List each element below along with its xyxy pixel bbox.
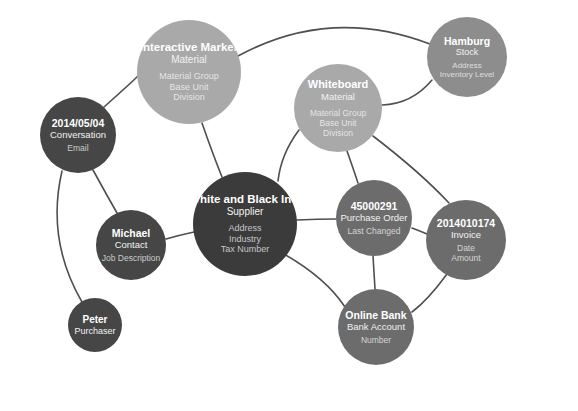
edge-conversation-interactive-marker: [104, 76, 138, 107]
graph-node-attribute-list: Material GroupBase UnitDivision: [159, 71, 219, 103]
graph-node-attribute-list: AddressIndustryTax Number: [221, 223, 270, 255]
graph-node-attribute: Base Unit: [169, 82, 208, 93]
graph-node-attribute: Address: [228, 223, 261, 234]
edge-michael-supplier: [166, 232, 194, 239]
graph-node-type: Invoice: [451, 229, 481, 240]
graph-node-attribute: Amount: [451, 253, 480, 263]
graph-node-attribute: Industry: [229, 234, 261, 245]
graph-node-peter[interactable]: PeterPurchaser: [68, 298, 122, 352]
graph-node-attribute: Division: [323, 128, 353, 138]
graph-node-attribute: Email: [67, 143, 88, 153]
graph-node-attribute-list: AddressInventory Level: [440, 61, 494, 80]
graph-node-attribute: Date: [457, 243, 475, 253]
graph-node-attribute-list: DateAmount: [451, 243, 480, 263]
graph-node-attribute-list: Job Description: [102, 253, 161, 263]
edge-conversation-michael: [93, 170, 117, 213]
graph-node-title: Hamburg: [444, 35, 490, 47]
graph-node-attribute: Tax Number: [221, 244, 270, 255]
graph-node-attribute-list: Number: [361, 335, 391, 345]
graph-node-michael[interactable]: MichaelContactJob Description: [96, 210, 166, 280]
edge-whiteboard-purchase-order: [347, 151, 358, 183]
edge-purchase-order-online-bank: [373, 256, 375, 289]
graph-node-attribute: Material Group: [310, 108, 366, 118]
graph-node-title: Michael: [112, 227, 151, 239]
graph-node-white-and-black-inc[interactable]: White and Black Inc.SupplierAddressIndus…: [193, 172, 297, 276]
graph-node-online-bank[interactable]: Online BankBank AccountNumber: [338, 289, 414, 365]
graph-node-title: 2014/05/04: [52, 117, 105, 129]
graph-node-attribute: Job Description: [102, 253, 161, 263]
graph-node-attribute: Division: [173, 92, 205, 103]
graph-node-purchase-order[interactable]: 45000291Purchase OrderLast Changed: [336, 180, 412, 256]
graph-node-title: 45000291: [351, 200, 398, 212]
graph-node-type: Purchase Order: [340, 212, 407, 223]
edge-invoice-online-bank: [412, 274, 447, 312]
graph-node-attribute: Address: [452, 61, 481, 70]
edge-whiteboard-hamburg: [382, 80, 432, 105]
graph-node-attribute-list: Email: [67, 143, 88, 153]
graph-node-type: Conversation: [50, 129, 106, 140]
graph-node-title: Interactive Marker: [140, 41, 238, 55]
graph-node-attribute: Inventory Level: [440, 70, 494, 79]
graph-node-title: 2014010174: [437, 217, 495, 229]
graph-node-title: Peter: [82, 314, 107, 326]
graph-node-type: Supplier: [227, 206, 264, 218]
edge-whiteboard-supplier: [278, 130, 299, 181]
graph-node-interactive-marker[interactable]: Interactive MarkerMaterialMaterial Group…: [137, 20, 241, 124]
edge-supplier-online-bank: [284, 254, 345, 307]
edge-interactive-marker-supplier: [202, 123, 222, 177]
edge-supplier-purchase-order: [297, 219, 336, 220]
edge-purchase-order-invoice: [412, 228, 427, 234]
graph-node-title: Whiteboard: [308, 78, 369, 91]
graph-node-invoice[interactable]: 2014010174InvoiceDateAmount: [426, 200, 506, 280]
graph-node-title: White and Black Inc.: [193, 193, 297, 207]
graph-node-hamburg[interactable]: HamburgStockAddressInventory Level: [427, 17, 507, 97]
graph-node-attribute: Number: [361, 335, 391, 345]
graph-node-type: Contact: [115, 239, 148, 250]
graph-node-attribute: Material Group: [159, 71, 219, 82]
graph-node-type: Material: [321, 91, 355, 102]
graph-node-type: Material: [171, 54, 207, 66]
graph-node-attribute: Last Changed: [348, 226, 401, 236]
graph-node-type: Stock: [456, 47, 479, 58]
graph-node-title: Online Bank: [345, 309, 406, 321]
graph-node-type: Bank Account: [347, 321, 405, 332]
graph-node-type: Purchaser: [74, 326, 115, 337]
graph-node-attribute-list: Last Changed: [348, 226, 401, 236]
edge-conversation-peter: [57, 171, 82, 302]
graph-node-conversation[interactable]: 2014/05/04ConversationEmail: [40, 97, 116, 173]
graph-node-attribute-list: Material GroupBase UnitDivision: [310, 108, 366, 138]
edge-interactive-marker-hamburg: [238, 28, 430, 56]
graph-node-whiteboard[interactable]: WhiteboardMaterialMaterial GroupBase Uni…: [294, 64, 382, 152]
graph-canvas: Interactive MarkerMaterialMaterial Group…: [0, 0, 578, 411]
graph-node-attribute: Base Unit: [320, 118, 357, 128]
